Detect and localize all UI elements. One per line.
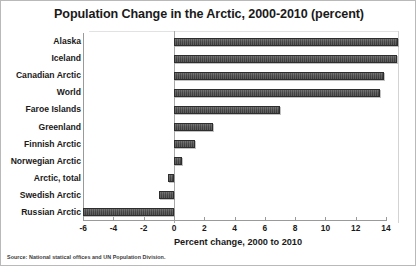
x-axis-tick-label: 14 <box>374 223 398 233</box>
x-axis-tick-mark <box>386 217 387 221</box>
x-axis-tick-label: 6 <box>253 223 277 233</box>
x-axis-tick-mark <box>174 217 175 221</box>
plot-frame-top-edge <box>89 31 399 32</box>
x-axis-tick-mark <box>235 217 236 221</box>
x-axis-tick-mark <box>204 217 205 221</box>
bar <box>174 106 280 114</box>
x-axis-tick-mark <box>83 217 84 221</box>
bar <box>174 89 380 97</box>
bar <box>168 174 174 182</box>
x-axis-tick-mark <box>113 217 114 221</box>
x-axis-tick-mark <box>144 217 145 221</box>
bar <box>174 38 398 46</box>
source-note: Source: National statical offices and UN… <box>7 254 166 260</box>
bar <box>174 55 397 63</box>
bars-layer <box>1 33 416 221</box>
x-axis-title: Percent change, 2000 to 2010 <box>83 237 393 247</box>
x-axis-tick-label: 8 <box>283 223 307 233</box>
x-axis-tick-mark <box>295 217 296 221</box>
x-axis-tick-label: -2 <box>132 223 156 233</box>
x-axis-tick-label: 2 <box>192 223 216 233</box>
x-axis-tick-label: 10 <box>313 223 337 233</box>
x-axis-tick-label: 12 <box>344 223 368 233</box>
bar <box>174 123 213 131</box>
chart-figure: Population Change in the Arctic, 2000-20… <box>0 0 416 266</box>
bar <box>174 140 195 148</box>
x-axis: -6-4-202468101214 <box>1 221 416 237</box>
bar <box>174 72 384 80</box>
chart-title: Population Change in the Arctic, 2000-20… <box>1 7 416 21</box>
x-axis-tick-mark <box>325 217 326 221</box>
x-axis-tick-mark <box>265 217 266 221</box>
bar <box>174 157 182 165</box>
x-axis-tick-label: 4 <box>223 223 247 233</box>
x-axis-tick-label: -4 <box>101 223 125 233</box>
x-axis-tick-label: -6 <box>71 223 95 233</box>
bar <box>83 208 174 216</box>
x-axis-tick-label: 0 <box>162 223 186 233</box>
bar <box>159 191 174 199</box>
x-axis-tick-mark <box>356 217 357 221</box>
